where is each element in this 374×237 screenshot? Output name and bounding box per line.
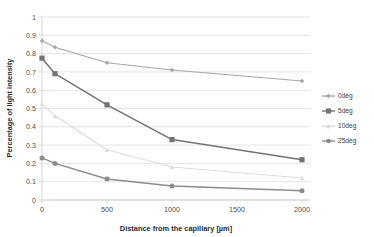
- y-tick-label: 0.3: [26, 141, 36, 150]
- y-axis-title: Percentage of light intensity: [5, 58, 14, 158]
- data-point-marker-0-4: [300, 79, 304, 83]
- data-point-marker-legend-1: [326, 108, 331, 113]
- x-tick-labels: 0500100015002000: [40, 205, 310, 214]
- data-point-marker-1-4: [299, 157, 304, 162]
- data-point-marker-1-1: [52, 71, 57, 76]
- x-tick-label: 2000: [294, 205, 310, 214]
- data-point-marker-0-2: [105, 61, 109, 65]
- data-point-marker-3-0: [40, 155, 45, 160]
- y-tick-label: 0.7: [26, 68, 36, 77]
- legend-label-5deg[interactable]: 5deg: [338, 107, 353, 115]
- x-tick-label: 0: [40, 205, 44, 214]
- y-tick-label: 0.9: [26, 31, 36, 40]
- series-line-5deg: [42, 58, 302, 160]
- y-tick-label: 1: [32, 13, 36, 22]
- data-point-marker-1-0: [39, 56, 44, 61]
- data-point-marker-0-1: [53, 45, 57, 49]
- legend-label-0deg[interactable]: 0deg: [338, 92, 353, 100]
- data-point-marker-1-3: [169, 137, 174, 142]
- data-point-marker-legend-0: [326, 94, 331, 99]
- data-series-group: [39, 39, 304, 194]
- data-point-marker-3-2: [105, 176, 110, 181]
- line-chart: 00.10.20.30.40.50.60.70.80.91 0500100015…: [0, 0, 374, 237]
- x-axis-title: Distance from the capillary [µm]: [120, 224, 233, 233]
- data-point-marker-0-0: [40, 39, 44, 43]
- data-point-marker-1-2: [104, 102, 109, 107]
- data-point-marker-3-4: [300, 188, 305, 193]
- x-tick-label: 500: [101, 205, 113, 214]
- x-axis: [42, 200, 310, 203]
- chart-container: 00.10.20.30.40.50.60.70.80.91 0500100015…: [0, 0, 374, 237]
- y-tick-labels: 00.10.20.30.40.50.60.70.80.91: [26, 13, 36, 205]
- data-point-marker-legend-3: [326, 139, 331, 144]
- y-tick-label: 0.2: [26, 159, 36, 168]
- data-point-marker-3-1: [53, 161, 58, 166]
- y-tick-label: 0: [32, 196, 36, 205]
- x-tick-label: 1500: [229, 205, 245, 214]
- y-tick-label: 0.5: [26, 104, 36, 113]
- gridlines: [42, 17, 310, 200]
- data-point-marker-2-0: [40, 102, 44, 106]
- series-line-0deg: [42, 41, 302, 81]
- legend-label-25deg[interactable]: 25deg: [338, 137, 357, 145]
- y-tick-label: 0.4: [26, 122, 36, 131]
- y-tick-label: 0.8: [26, 49, 36, 58]
- legend-label-10deg[interactable]: 10deg: [338, 122, 357, 130]
- y-tick-label: 0.6: [26, 86, 36, 95]
- data-point-marker-3-3: [170, 183, 175, 188]
- legend: 0deg5deg10deg25deg: [322, 92, 357, 145]
- x-tick-label: 1000: [164, 205, 180, 214]
- y-tick-label: 0.1: [26, 177, 36, 186]
- y-axis: [39, 17, 42, 200]
- series-0deg: [40, 39, 304, 84]
